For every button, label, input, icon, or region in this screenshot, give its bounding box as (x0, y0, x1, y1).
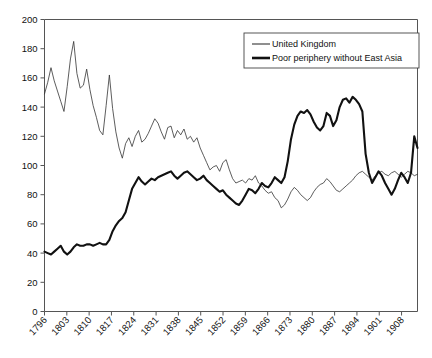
x-tick-label: 1796 (26, 314, 48, 337)
y-tick-label: 100 (22, 160, 38, 171)
x-tick-label: 1859 (227, 314, 249, 337)
x-tick-label: 1866 (250, 314, 272, 337)
x-tick-label: 1873 (272, 314, 294, 337)
y-tick-label: 40 (27, 248, 38, 259)
chart-container: 020406080100120140160180200 179618031810… (0, 0, 432, 358)
y-tick-label: 80 (27, 189, 38, 200)
line-chart: 020406080100120140160180200 179618031810… (0, 0, 432, 358)
y-tick-label: 20 (27, 277, 38, 288)
y-tick-label: 200 (22, 14, 38, 25)
y-tick-label: 180 (22, 43, 38, 54)
legend-label-poor-periphery: Poor periphery without East Asia (272, 53, 402, 63)
y-axis-ticks: 020406080100120140160180200 (22, 14, 45, 317)
x-tick-label: 1845 (183, 314, 205, 337)
y-tick-label: 0 (32, 306, 37, 317)
x-tick-label: 1810 (71, 314, 93, 337)
x-tick-label: 1838 (160, 314, 182, 337)
chart-legend: United Kingdom Poor periphery without Ea… (244, 33, 419, 68)
x-tick-label: 1894 (339, 314, 361, 337)
y-tick-label: 120 (22, 131, 38, 142)
legend-label-united-kingdom: United Kingdom (272, 39, 336, 49)
y-tick-label: 60 (27, 218, 38, 229)
y-tick-label: 140 (22, 102, 38, 113)
x-tick-label: 1908 (384, 314, 406, 337)
x-tick-label: 1901 (361, 314, 383, 337)
series-line-poor-periphery (45, 97, 418, 255)
x-tick-label: 1880 (294, 314, 316, 337)
x-tick-label: 1803 (49, 314, 71, 337)
x-tick-label: 1831 (138, 314, 160, 337)
y-tick-label: 160 (22, 72, 38, 83)
x-axis-ticks: 1796180318101817182418311838184518521859… (26, 312, 406, 338)
x-tick-label: 1817 (93, 314, 115, 337)
x-tick-label: 1824 (116, 314, 138, 337)
x-tick-label: 1887 (317, 314, 339, 337)
x-tick-label: 1852 (205, 314, 227, 337)
